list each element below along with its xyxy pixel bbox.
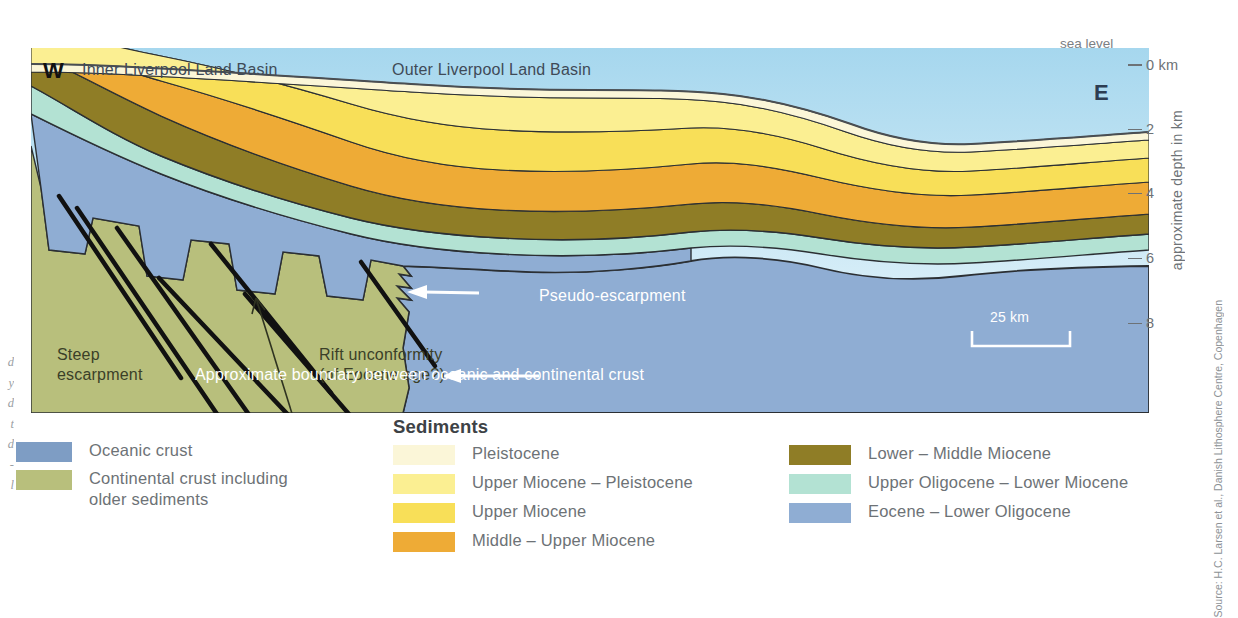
compass-west: W bbox=[43, 58, 64, 84]
legend-item-lower-middle-miocene: Lower – Middle Miocene bbox=[789, 443, 1128, 465]
legend-swatch-upper-miocene bbox=[393, 503, 455, 523]
basin-label-inner: Inner Liverpool Land Basin bbox=[82, 61, 278, 79]
legend-item-continental-crust: Continental crust including older sedime… bbox=[16, 468, 288, 510]
legend-column-crust: Oceanic crust Continental crust includin… bbox=[16, 440, 288, 516]
compass-east: E bbox=[1094, 80, 1109, 106]
steep-escarpment-line2: escarpment bbox=[57, 365, 143, 385]
depth-axis: 0 km 2 4 6 8 bbox=[1128, 40, 1198, 380]
bleed-line: d bbox=[0, 352, 14, 373]
legend-swatch-upper-miocene-pleistocene bbox=[393, 474, 455, 494]
legend-label-eocene-lower-oligocene: Eocene – Lower Oligocene bbox=[868, 501, 1071, 522]
rift-unconformity-line1: Rift unconformity bbox=[319, 345, 445, 365]
legend-item-upper-miocene-pleistocene: Upper Miocene – Pleistocene bbox=[393, 472, 693, 494]
legend-label-upper-miocene: Upper Miocene bbox=[472, 501, 587, 522]
legend-item-pleistocene: Pleistocene bbox=[393, 443, 693, 465]
legend-swatch-pleistocene bbox=[393, 445, 455, 465]
legend-label-oceanic-crust: Oceanic crust bbox=[89, 440, 192, 461]
tick-line-2 bbox=[1128, 129, 1142, 130]
tick-line-4 bbox=[1128, 193, 1142, 194]
basin-label-outer: Outer Liverpool Land Basin bbox=[392, 61, 591, 79]
legend-item-oceanic-crust: Oceanic crust bbox=[16, 440, 288, 462]
legend-swatch-middle-upper-miocene bbox=[393, 532, 455, 552]
tick-label-2: 2 bbox=[1146, 121, 1154, 137]
bleed-line: d bbox=[0, 393, 14, 414]
tick-line-8 bbox=[1128, 323, 1142, 324]
legend-label-continental-crust: Continental crust including older sedime… bbox=[89, 468, 288, 510]
legend-swatch-oceanic-crust bbox=[16, 442, 72, 462]
legend-item-upper-miocene: Upper Miocene bbox=[393, 501, 693, 523]
tick-label-4: 4 bbox=[1146, 185, 1154, 201]
depth-axis-title: approximate depth in km bbox=[1169, 110, 1185, 270]
legend-item-eocene-lower-oligocene: Eocene – Lower Oligocene bbox=[789, 501, 1128, 523]
legend-heading-sediments: Sediments bbox=[393, 416, 488, 438]
legend-column-sediments-left: Pleistocene Upper Miocene – Pleistocene … bbox=[393, 443, 693, 559]
legend-swatch-eocene-lower-oligocene bbox=[789, 503, 851, 523]
legend-label-pleistocene: Pleistocene bbox=[472, 443, 560, 464]
legend-item-upper-oligocene-lower-miocene: Upper Oligocene – Lower Miocene bbox=[789, 472, 1128, 494]
legend-label-upper-miocene-pleistocene: Upper Miocene – Pleistocene bbox=[472, 472, 693, 493]
tick-line-0 bbox=[1128, 65, 1142, 66]
legend-item-middle-upper-miocene: Middle – Upper Miocene bbox=[393, 530, 693, 552]
legend: Sediments Oceanic crust Continental crus… bbox=[0, 416, 1238, 566]
legend-swatch-lower-middle-miocene bbox=[789, 445, 851, 465]
legend-column-sediments-right: Lower – Middle Miocene Upper Oligocene –… bbox=[789, 443, 1128, 530]
scale-bar-label: 25 km bbox=[990, 309, 1029, 325]
bleed-line: y bbox=[0, 373, 14, 394]
steep-escarpment-line1: Steep bbox=[57, 345, 143, 365]
legend-swatch-upper-oligocene-lower-miocene bbox=[789, 474, 851, 494]
legend-label-lower-middle-miocene: Lower – Middle Miocene bbox=[868, 443, 1051, 464]
tick-label-0: 0 km bbox=[1146, 57, 1178, 73]
legend-label-middle-upper-miocene: Middle – Upper Miocene bbox=[472, 530, 655, 551]
legend-label-upper-oligocene-lower-miocene: Upper Oligocene – Lower Miocene bbox=[868, 472, 1128, 493]
legend-swatch-continental-crust bbox=[16, 470, 72, 490]
cross-section-figure: W E Inner Liverpool Land Basin Outer Liv… bbox=[31, 48, 1149, 413]
pseudo-escarpment-label: Pseudo-escarpment bbox=[539, 287, 686, 305]
tick-label-6: 6 bbox=[1146, 250, 1154, 266]
tick-label-8: 8 bbox=[1146, 315, 1154, 331]
layer-oceanic-crust bbox=[397, 257, 1149, 413]
sea-level-label: sea level bbox=[1060, 36, 1113, 51]
tick-line-6 bbox=[1128, 258, 1142, 259]
steep-escarpment-label: Steep escarpment bbox=[57, 345, 143, 385]
crust-boundary-label: Approximate boundary between oceanic and… bbox=[195, 366, 644, 384]
